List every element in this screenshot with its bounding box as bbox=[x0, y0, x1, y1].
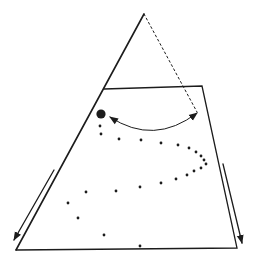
trajectory-dot bbox=[115, 190, 118, 193]
trajectory-dot bbox=[139, 186, 142, 189]
trajectory-dot bbox=[140, 139, 143, 142]
trajectory-dot bbox=[118, 138, 121, 141]
trajectory-dot bbox=[200, 167, 203, 170]
cone-edges bbox=[16, 14, 197, 250]
trajectory-dot bbox=[160, 182, 163, 185]
edge-direction-arrows bbox=[14, 164, 242, 243]
oscillation-arc-path bbox=[110, 113, 197, 131]
trajectory-dot bbox=[200, 155, 203, 158]
trajectory-dot bbox=[193, 170, 196, 173]
trajectory-dot bbox=[188, 147, 191, 150]
trajectory-dot bbox=[195, 151, 198, 154]
pendulum-spiral-diagram bbox=[0, 0, 254, 260]
trajectory-dot bbox=[103, 234, 106, 237]
trajectory-dot bbox=[100, 133, 103, 136]
cone-dotted-edge bbox=[144, 14, 197, 112]
trajectory-dot bbox=[177, 144, 180, 147]
ball bbox=[96, 109, 105, 118]
trapezoid-outline bbox=[16, 86, 237, 250]
trajectory-dot bbox=[67, 202, 70, 205]
trajectory-dot bbox=[203, 159, 206, 162]
trajectory-dot bbox=[175, 178, 178, 181]
ball-marker bbox=[96, 109, 105, 118]
trajectory-dot bbox=[85, 191, 88, 194]
trajectory-dot bbox=[186, 174, 189, 177]
trajectory-dot bbox=[205, 163, 208, 166]
cone-left-edge bbox=[16, 14, 144, 250]
left-edge-arrow bbox=[14, 170, 54, 240]
oscillation-arc bbox=[110, 113, 197, 131]
trajectory-dot bbox=[160, 142, 163, 145]
trajectory-dot bbox=[139, 245, 142, 248]
trajectory-dots bbox=[67, 125, 208, 248]
diagram-canvas bbox=[0, 0, 254, 260]
trajectory-dot bbox=[77, 217, 80, 220]
trapezoid-face bbox=[16, 86, 237, 250]
right-edge-arrow bbox=[223, 164, 242, 243]
trajectory-dot bbox=[99, 125, 102, 128]
